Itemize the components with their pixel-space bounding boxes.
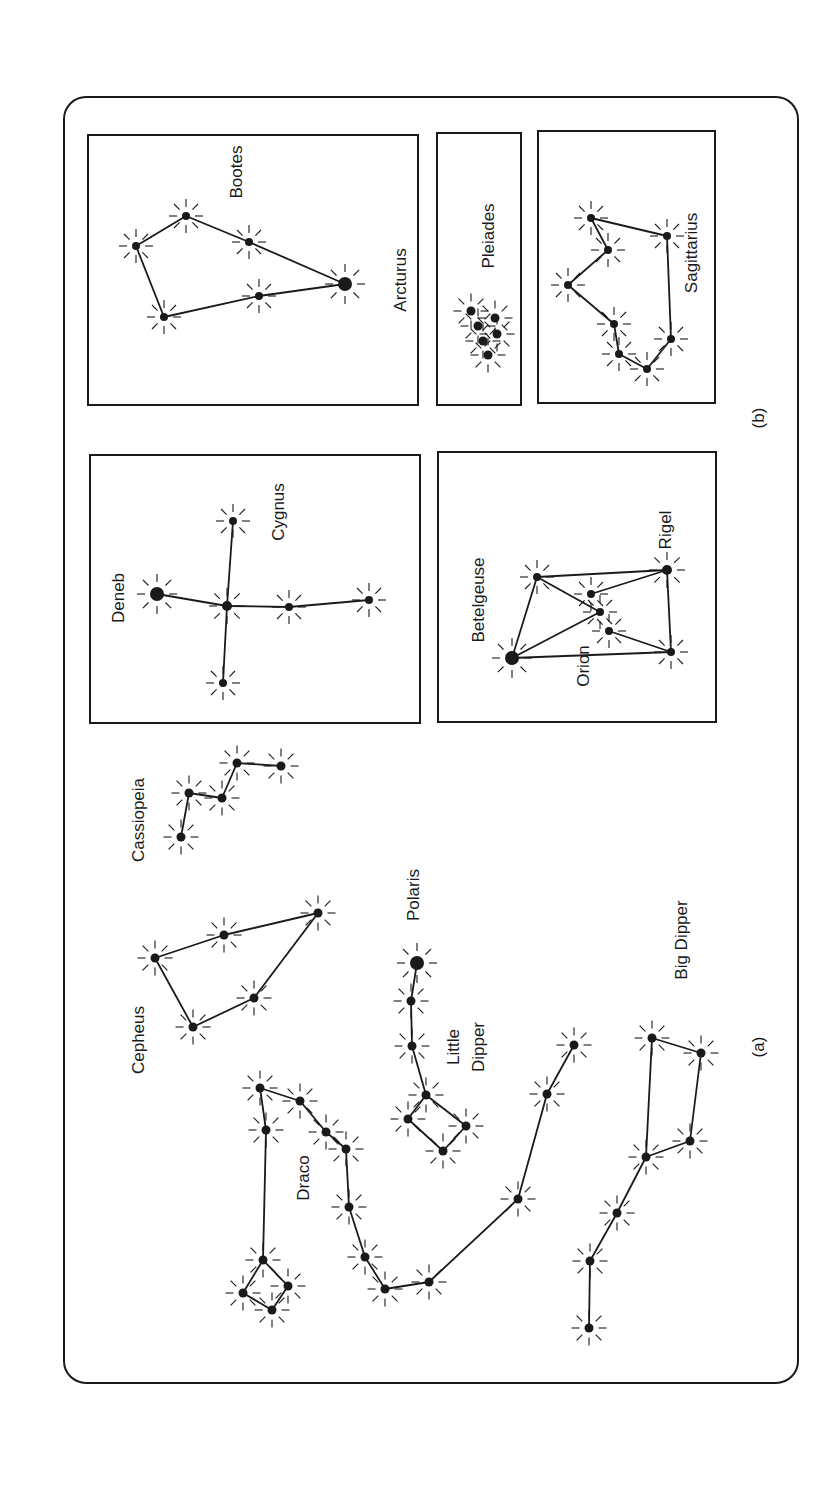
star-dot [570,1041,579,1050]
constellation-line [365,1257,385,1289]
star-ray [211,689,217,695]
star-ray [607,342,613,348]
constellation-line [155,935,224,958]
star-icon [654,322,688,356]
constellations-layer: BootesArcturusPleiadesSagittariusCygnusD… [109,146,718,1346]
star-ray [174,204,180,210]
star-dot [697,1049,706,1058]
star-ray [697,1129,703,1135]
star-dot [285,603,293,611]
constellation-label: Orion [574,645,593,687]
star-ray [659,1026,665,1032]
star-ray [614,256,620,262]
star-ray [267,1076,273,1082]
star-ray [620,330,626,336]
star-icon [635,1021,670,1056]
constellation-label: Rigel [656,511,675,550]
star-ray [192,222,198,228]
star-ray [248,1076,254,1082]
star-ray [214,593,220,599]
star-ray [677,345,683,351]
constellation-line [346,1149,349,1207]
star-ray [277,613,283,619]
star-ray [556,273,562,279]
star-icon [394,984,429,1019]
star-ray [678,1129,684,1135]
star-ray [295,595,301,601]
star-ray [169,825,175,831]
star-ray [210,805,216,811]
star-dot [407,997,416,1006]
star-icon [209,588,245,624]
star-dot [425,1278,434,1287]
star-dot [245,238,253,246]
star-ray [502,306,508,312]
star-ray [273,1118,279,1124]
constellation-label: Pleiades [479,203,498,268]
star-icon [237,981,272,1016]
star-ray [554,1082,560,1088]
star-dot [587,590,595,598]
star-icon [264,749,299,784]
star-icon [557,1028,592,1063]
star-icon [368,1272,403,1307]
constellation-line [136,246,164,317]
star-icon [574,577,608,611]
star-ray [473,1133,479,1139]
star-icon [673,1124,708,1159]
star-ray [306,901,312,907]
star-ray [596,1335,602,1341]
star-ray [433,1083,439,1089]
star-ray [597,1268,603,1274]
constellation-line [411,1001,412,1046]
star-ray [142,252,148,258]
star-icon [172,776,207,811]
star-ray [659,640,665,646]
star-ray [581,1052,587,1058]
star-icon [216,504,250,538]
star-dot [491,314,500,323]
star-dot [342,1145,351,1154]
star-icon [449,1109,484,1144]
star-ray [620,312,626,318]
star-ray [325,901,331,907]
star-ray [239,527,245,533]
star-ray [288,1089,294,1095]
star-ray [375,588,381,594]
star-icon [255,1293,290,1328]
constellation-line [619,354,647,369]
star-ray [255,230,261,236]
panel-frames [88,131,716,723]
star-ray [375,606,381,612]
constellation-line [667,570,671,652]
star-icon [271,1269,306,1304]
star-ray [325,920,331,926]
constellation-line [249,242,345,284]
star-ray [200,1034,206,1040]
star-ray [143,580,149,586]
star-ray [372,1245,378,1251]
constellation-line [646,1038,652,1157]
star-ray [248,1095,254,1101]
star-ray [242,986,248,992]
star-ray [596,238,602,244]
star-icon [329,1132,364,1167]
cygnus-panel [90,455,420,723]
star-icon [169,199,203,233]
constellation-line [223,606,227,683]
star-ray [356,1195,362,1201]
star-dot [408,1042,417,1051]
star-icon [629,1140,664,1175]
star-ray [554,1101,560,1107]
star-dot [462,1122,471,1131]
star-icon [391,1102,426,1137]
star-dot [596,608,604,616]
star-ray [152,323,158,329]
star-ray [170,305,176,311]
star-ray [498,644,504,650]
star-icon [597,307,631,341]
star-ray [607,360,613,366]
star-dot [268,1306,277,1315]
star-dot [533,573,541,581]
constellation-draco: Draco [226,1028,592,1328]
